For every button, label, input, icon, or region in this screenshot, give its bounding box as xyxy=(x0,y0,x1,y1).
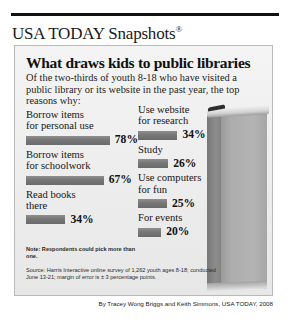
chart-note: Note: Respondents could pick more than o… xyxy=(26,246,146,260)
bar-fill xyxy=(26,136,110,145)
bar-row: 34% xyxy=(138,129,224,141)
bar-item-label: For events xyxy=(138,212,224,223)
bar-value-label: 34% xyxy=(70,214,93,226)
bar-item: For events20% xyxy=(138,212,224,238)
bar-value-label: 67% xyxy=(109,174,132,186)
bar-item-label: Read booksthere xyxy=(26,189,138,212)
bar-item-label: Use computersfor fun xyxy=(138,172,224,195)
bar-fill xyxy=(26,215,65,224)
registered-trademark-icon: ® xyxy=(175,24,182,34)
bar-item: Use computersfor fun25% xyxy=(138,172,224,209)
bar-column-left: Borrow itemsfor personal use78%Borrow it… xyxy=(26,109,138,229)
bar-value-label: 34% xyxy=(182,129,205,141)
bar-item: Use websitefor research34% xyxy=(138,104,224,141)
bar-value-label: 20% xyxy=(166,226,189,238)
usa-today-snapshots-logo: USA TODAY Snapshots® xyxy=(12,19,272,39)
chart-credit: By Tracey Wong Briggs and Keith Simmons,… xyxy=(14,300,273,308)
bar-row: 78% xyxy=(26,134,138,146)
bar-item-label: Borrow itemsfor schoolwork xyxy=(26,149,138,172)
bar-row: 34% xyxy=(26,214,138,226)
book-cover-face xyxy=(221,113,267,289)
bar-fill xyxy=(26,176,104,185)
bar-fill xyxy=(138,159,168,168)
book-bottom-edge xyxy=(207,281,267,291)
bar-value-label: 25% xyxy=(172,198,195,210)
bar-item-label: Study xyxy=(138,144,224,155)
bar-item-label: Borrow itemsfor personal use xyxy=(26,109,138,132)
bar-row: 26% xyxy=(138,158,224,170)
bar-row: 67% xyxy=(26,174,138,186)
bar-item: Study26% xyxy=(138,144,224,170)
logo-text: USA TODAY Snapshots xyxy=(12,24,175,43)
bar-item-label: Use websitefor research xyxy=(138,104,224,127)
chart-title: What draws kids to public libraries xyxy=(26,54,264,71)
bar-fill xyxy=(138,131,177,140)
bar-fill xyxy=(138,199,167,208)
bar-column-right: Use websitefor research34%Study26%Use co… xyxy=(138,104,224,241)
bar-fill xyxy=(138,228,161,237)
bar-row: 20% xyxy=(138,226,224,238)
bar-value-label: 78% xyxy=(115,134,138,146)
bar-item: Borrow itemsfor personal use78% xyxy=(26,109,138,146)
bar-value-label: 26% xyxy=(173,158,196,170)
masthead-rule xyxy=(11,13,279,16)
chart-source: Source: Harris Interactive online survey… xyxy=(26,267,216,282)
snapshot-graphic: USA TODAY Snapshots® What draws kids to … xyxy=(0,0,289,329)
bar-row: 25% xyxy=(138,198,224,210)
chart-subtitle: Of the two-thirds of youth 8-18 who have… xyxy=(26,72,256,107)
bar-item: Borrow itemsfor schoolwork67% xyxy=(26,149,138,186)
chart-panel: What draws kids to public libraries Of t… xyxy=(14,45,273,296)
bar-item: Read booksthere34% xyxy=(26,189,138,226)
